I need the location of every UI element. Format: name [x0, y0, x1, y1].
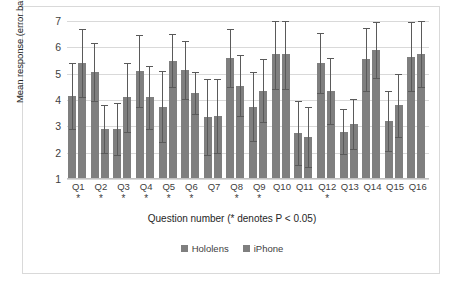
- significance-marker: *: [158, 194, 180, 203]
- y-axis-title: Mean response (error bar denotes stdev): [14, 0, 25, 103]
- error-bar: [240, 55, 241, 116]
- error-bar-cap: [204, 79, 211, 80]
- error-bar: [366, 28, 367, 91]
- error-bar: [117, 103, 118, 156]
- x-axis-tick-label: Q6: [180, 181, 202, 192]
- error-bar-cap: [114, 103, 121, 104]
- error-bar: [104, 105, 105, 152]
- error-bar: [185, 41, 186, 99]
- error-bar-cap: [192, 72, 199, 73]
- error-bar-cap: [373, 22, 380, 23]
- x-axis-tick-label: Q15: [384, 181, 406, 192]
- error-bar-cap: [227, 29, 234, 30]
- error-bar-cap: [146, 66, 153, 67]
- error-bar-cap: [282, 89, 289, 90]
- error-bar-cap: [79, 97, 86, 98]
- error-bar: [285, 21, 286, 89]
- bar-group: [339, 21, 362, 179]
- error-bar-cap: [237, 116, 244, 117]
- error-bar: [343, 109, 344, 154]
- error-bar-cap: [305, 107, 312, 108]
- x-axis-tick-label: Q5: [158, 181, 180, 192]
- error-bar-cap: [395, 137, 402, 138]
- error-bar-cap: [169, 34, 176, 35]
- error-bar-cap: [237, 55, 244, 56]
- x-axis-tick-label: Q9: [248, 181, 270, 192]
- bar-group: [248, 21, 271, 179]
- legend-label: iPhone: [254, 243, 284, 254]
- error-bar-cap: [373, 78, 380, 79]
- error-bar: [298, 101, 299, 164]
- significance-marker: *: [226, 194, 248, 203]
- significance-marker: *: [248, 194, 270, 203]
- bar-group: [158, 21, 181, 179]
- error-bar-cap: [214, 153, 221, 154]
- error-bar-cap: [282, 21, 289, 22]
- error-bar: [330, 58, 331, 124]
- significance-marker: *: [135, 194, 157, 203]
- significance-marker: *: [90, 194, 112, 203]
- x-axis-tick-label: Q16: [407, 181, 429, 192]
- x-axis-title: Question number (* denotes P < 0.05): [23, 213, 441, 224]
- legend-item[interactable]: iPhone: [243, 243, 284, 254]
- error-bar-cap: [250, 72, 257, 73]
- error-bar-cap: [250, 141, 257, 142]
- error-bar-cap: [136, 35, 143, 36]
- bar-group: [135, 21, 158, 179]
- error-bar-cap: [418, 21, 425, 22]
- error-bar: [376, 22, 377, 77]
- x-axis-tick-label: Q14: [361, 181, 383, 192]
- error-bar-cap: [146, 129, 153, 130]
- error-bar: [217, 79, 218, 153]
- error-bar-cap: [385, 91, 392, 92]
- bar-group: [112, 21, 135, 179]
- error-bar-cap: [124, 63, 131, 64]
- error-bar: [127, 63, 128, 131]
- error-bar: [230, 29, 231, 87]
- bar-group: [203, 21, 226, 179]
- y-axis-tick-label: 3: [55, 120, 61, 132]
- error-bar-cap: [340, 154, 347, 155]
- error-bar: [149, 66, 150, 129]
- error-bar: [94, 43, 95, 101]
- bar-group: [67, 21, 90, 179]
- legend-swatch-icon: [243, 245, 250, 252]
- error-bar: [162, 71, 163, 142]
- error-bar-cap: [327, 124, 334, 125]
- error-bar-cap: [91, 43, 98, 44]
- error-bar-cap: [159, 142, 166, 143]
- error-bar-cap: [317, 93, 324, 94]
- legend-label: Hololens: [192, 243, 229, 254]
- chart-legend: HololensiPhone: [23, 243, 441, 254]
- bar-group: [271, 21, 294, 179]
- error-bar-cap: [182, 99, 189, 100]
- error-bar: [275, 21, 276, 89]
- x-axis-tick-label: Q3: [113, 181, 135, 192]
- error-bar: [195, 72, 196, 114]
- error-bar-cap: [69, 129, 76, 130]
- error-bar-cap: [363, 28, 370, 29]
- error-bar-cap: [227, 87, 234, 88]
- y-axis-tick-label: 6: [55, 41, 61, 53]
- error-bar: [82, 29, 83, 97]
- error-bar: [253, 72, 254, 140]
- y-axis-tick-label: 1: [55, 173, 61, 185]
- error-bar-cap: [114, 155, 121, 156]
- x-axis-line: [67, 178, 429, 179]
- error-bar-cap: [350, 99, 357, 100]
- y-axis-tick-label: 4: [55, 94, 61, 106]
- y-axis-tick-label: 5: [55, 68, 61, 80]
- error-bar: [421, 21, 422, 87]
- error-bar-cap: [182, 41, 189, 42]
- legend-item[interactable]: Hololens: [181, 243, 229, 254]
- error-bar-cap: [101, 105, 108, 106]
- error-bar-cap: [124, 132, 131, 133]
- error-bar-cap: [418, 87, 425, 88]
- y-axis-tick-label: 2: [55, 147, 61, 159]
- error-bar-cap: [350, 149, 357, 150]
- bar-group: [225, 21, 248, 179]
- bar-group: [361, 21, 384, 179]
- x-axis-tick-label: Q10: [271, 181, 293, 192]
- error-bar-cap: [91, 101, 98, 102]
- error-bar-cap: [204, 155, 211, 156]
